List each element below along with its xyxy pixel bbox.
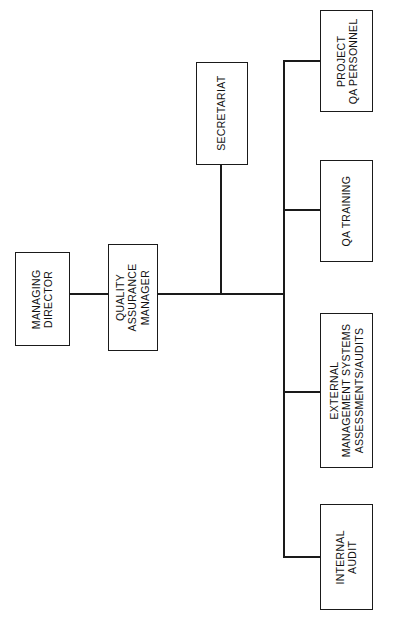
node-quality-assurance-manager[interactable]: QUALITY ASSURANCE MANAGER	[108, 244, 158, 351]
node-secretariat[interactable]: SECRETARIAT	[196, 62, 248, 165]
connector-md-to-qam	[69, 293, 109, 295]
node-secretariat-label: SECRETARIAT	[216, 76, 228, 151]
node-managing-director[interactable]: MANAGING DIRECTOR	[15, 252, 70, 346]
node-qa-training-label: QA TRAINING	[340, 176, 352, 247]
org-chart: MANAGING DIRECTOR QUALITY ASSURANCE MANA…	[0, 0, 411, 622]
node-external-management-systems-label: EXTERNAL MANAGEMENT SYSTEMS ASSESSMENTS/…	[328, 324, 365, 458]
connector-branch-internal-audit	[283, 556, 321, 558]
node-internal-audit[interactable]: INTERNAL AUDIT	[320, 504, 373, 610]
connector-branch-qa-training	[283, 209, 321, 211]
connector-trunk-vertical	[283, 60, 285, 558]
connector-secretariat-drop	[220, 164, 222, 294]
node-quality-assurance-manager-label: QUALITY ASSURANCE MANAGER	[114, 263, 151, 331]
node-project-qa-personnel-label: PROJECT QA PERSONNEL	[334, 18, 359, 104]
node-managing-director-label: MANAGING DIRECTOR	[30, 269, 55, 329]
node-external-management-systems[interactable]: EXTERNAL MANAGEMENT SYSTEMS ASSESSMENTS/…	[320, 313, 373, 468]
node-qa-training[interactable]: QA TRAINING	[320, 160, 373, 262]
connector-branch-external-management-systems	[283, 391, 321, 393]
node-internal-audit-label: INTERNAL AUDIT	[334, 530, 359, 584]
node-project-qa-personnel[interactable]: PROJECT QA PERSONNEL	[320, 10, 373, 112]
connector-branch-project-qa-personnel	[283, 60, 321, 62]
